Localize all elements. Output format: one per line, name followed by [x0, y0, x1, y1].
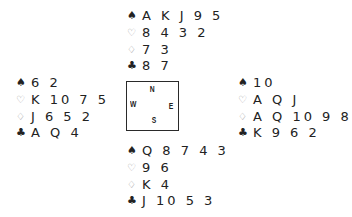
- west-hearts-row: ♡ K 10 7 5: [16, 92, 109, 108]
- heart-icon: ♡: [127, 25, 142, 41]
- south-clubs-row: ♣ J 10 5 3: [127, 193, 215, 209]
- spade-icon: ♠: [238, 75, 253, 91]
- compass-west: W: [130, 99, 136, 109]
- north-spades: A K J 9 5: [142, 8, 223, 24]
- south-spades-row: ♠ Q 8 7 4 3: [127, 143, 229, 159]
- club-icon: ♣: [127, 58, 142, 74]
- spade-icon: ♠: [127, 8, 142, 24]
- compass-box: N W E S: [126, 81, 179, 131]
- diamond-icon: ♢: [238, 109, 253, 125]
- spade-icon: ♠: [127, 143, 142, 159]
- west-diamonds: J 6 5 2: [31, 109, 93, 125]
- club-icon: ♣: [16, 125, 31, 141]
- north-diamonds-row: ♢ 7 3: [127, 42, 172, 58]
- south-diamonds: K 4: [142, 177, 172, 193]
- west-spades: 6 2: [31, 75, 61, 91]
- north-clubs: 8 7: [142, 58, 172, 74]
- north-spades-row: ♠ A K J 9 5: [127, 8, 223, 24]
- heart-icon: ♡: [238, 92, 253, 108]
- west-hearts: K 10 7 5: [31, 92, 109, 108]
- east-spades: 10: [253, 75, 276, 91]
- heart-icon: ♡: [16, 92, 31, 108]
- compass-east: E: [169, 101, 174, 111]
- east-spades-row: ♠ 10: [238, 75, 276, 91]
- south-clubs: J 10 5 3: [142, 193, 215, 209]
- club-icon: ♣: [127, 193, 142, 209]
- south-diamonds-row: ♢ K 4: [127, 177, 172, 193]
- compass-south: S: [152, 115, 157, 125]
- south-spades: Q 8 7 4 3: [142, 143, 229, 159]
- south-hearts-row: ♡ 9 6: [127, 160, 172, 176]
- west-clubs: A Q 4: [31, 125, 82, 141]
- diamond-icon: ♢: [16, 109, 31, 125]
- spade-icon: ♠: [16, 75, 31, 91]
- north-hearts-row: ♡ 8 4 3 2: [127, 25, 208, 41]
- compass-north: N: [150, 84, 155, 94]
- east-diamonds-row: ♢ A Q 10 9 8: [238, 109, 352, 125]
- east-clubs: K 9 6 2: [253, 125, 320, 141]
- north-hearts: 8 4 3 2: [142, 25, 208, 41]
- diamond-icon: ♢: [127, 177, 142, 193]
- east-hearts-row: ♡ A Q J: [238, 92, 299, 108]
- west-clubs-row: ♣ A Q 4: [16, 125, 82, 141]
- diamond-icon: ♢: [127, 42, 142, 58]
- north-diamonds: 7 3: [142, 42, 172, 58]
- west-spades-row: ♠ 6 2: [16, 75, 61, 91]
- north-clubs-row: ♣ 8 7: [127, 58, 172, 74]
- heart-icon: ♡: [127, 160, 142, 176]
- east-hearts: A Q J: [253, 92, 299, 108]
- west-diamonds-row: ♢ J 6 5 2: [16, 109, 93, 125]
- east-diamonds: A Q 10 9 8: [253, 109, 352, 125]
- club-icon: ♣: [238, 125, 253, 141]
- east-clubs-row: ♣ K 9 6 2: [238, 125, 320, 141]
- south-hearts: 9 6: [142, 160, 172, 176]
